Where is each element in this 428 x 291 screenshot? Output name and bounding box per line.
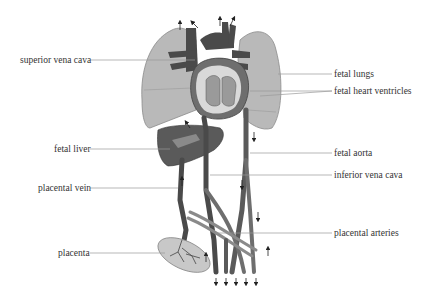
label-placental-arteries: placental arteries <box>334 228 399 239</box>
label-inferior-vena-cava: inferior vena cava <box>334 170 403 181</box>
label-fetal-heart-ventricles: fetal heart ventricles <box>334 86 412 97</box>
label-fetal-liver: fetal liver <box>54 144 91 155</box>
fetal-heart-shape <box>191 58 249 119</box>
label-placenta: placenta <box>58 248 90 259</box>
label-fetal-aorta: fetal aorta <box>334 148 372 159</box>
fetal-circulation-diagram: superior vena cava fetal liver placental… <box>0 0 428 291</box>
label-superior-vena-cava: superior vena cava <box>20 55 91 66</box>
label-placental-vein: placental vein <box>38 183 91 194</box>
label-fetal-lungs: fetal lungs <box>334 69 374 80</box>
fetal-liver-shape <box>157 125 223 166</box>
